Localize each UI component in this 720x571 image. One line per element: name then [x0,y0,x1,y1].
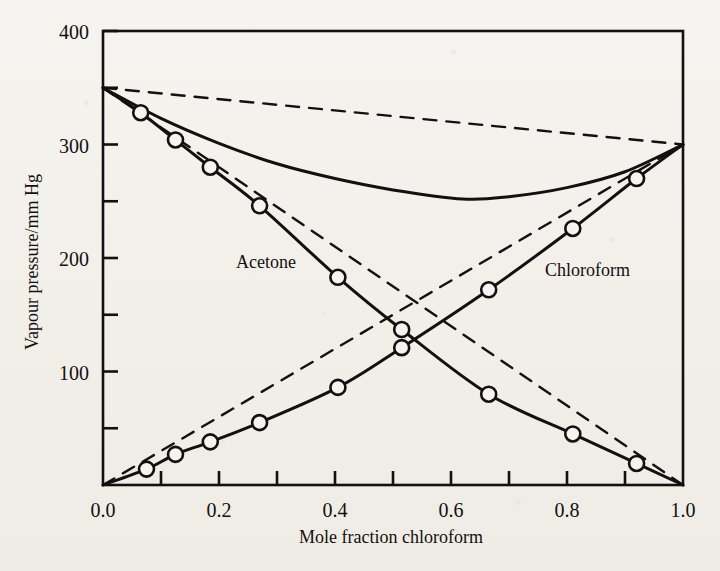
y-tick-label: 200 [59,248,89,270]
plot-frame [103,31,683,485]
y-axis-title: Vapour pressure/mm Hg [22,174,42,350]
data-point-marker [330,380,345,395]
data-point-marker [203,160,218,175]
x-tick-label: 1.0 [671,499,696,521]
data-point-marker [629,171,644,186]
series-path-3 [103,88,683,485]
series-path-5 [103,88,683,145]
y-tick-label: 300 [59,135,89,157]
data-point-marker [133,105,148,120]
data-point-marker [565,221,580,236]
y-tick-label: 400 [59,21,89,43]
vapour-pressure-figure: 100200300400 0.00.20.40.60.81.0 Acetone … [0,0,720,571]
series-label-chloroform: Chloroform [545,260,630,280]
data-point-marker [330,270,345,285]
x-axis-title: Mole fraction chloroform [299,527,483,547]
data-point-marker [481,282,496,297]
x-tick-label: 0.4 [323,499,348,521]
series-path-4 [103,145,683,486]
data-point-marker [394,340,409,355]
x-tick-label: 0.2 [207,499,232,521]
x-tick-label: 0.8 [555,499,580,521]
data-point-marker [203,434,218,449]
chart-canvas: 100200300400 0.00.20.40.60.81.0 Acetone … [0,0,720,571]
data-point-marker [394,322,409,337]
x-tick-label: 0.0 [91,499,116,521]
series-label-acetone: Acetone [236,252,296,272]
data-point-marker [168,447,183,462]
data-point-marker [252,415,267,430]
x-axis-ticks [161,471,625,485]
axes-box [103,31,683,485]
y-axis-tick-labels: 100200300400 [59,21,89,384]
data-curves [103,88,683,485]
x-axis-tick-labels: 0.00.20.40.60.81.0 [91,499,696,521]
x-tick-label: 0.6 [439,499,464,521]
data-point-marker [168,132,183,147]
data-point-marker [252,198,267,213]
data-point-marker [629,456,644,471]
y-tick-label: 100 [59,362,89,384]
data-point-marker [139,462,154,477]
data-point-marker [565,426,580,441]
data-point-marker [481,387,496,402]
series-path-2 [103,88,683,200]
